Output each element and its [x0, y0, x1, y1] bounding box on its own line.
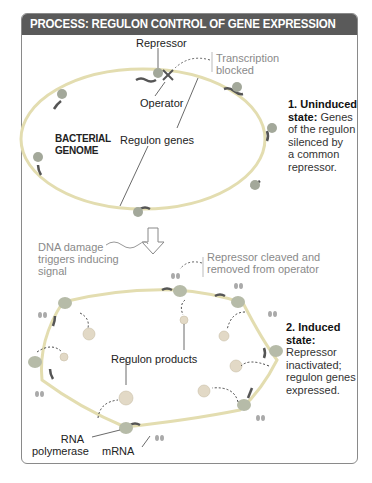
repressor-cleaved-label: Repressor cleaved and removed from opera… [207, 251, 320, 275]
induction-arrow-icon [142, 228, 164, 254]
induced-text-3: regulon genes [286, 371, 356, 384]
repressor-label: Repressor [136, 37, 187, 49]
uninduced-text-5: repressor. [288, 161, 357, 174]
uninduced-state-description: 1. Uninduced state: Genes of the regulon… [288, 98, 357, 173]
rna-polymerase-label: RNA polymerase [32, 433, 84, 457]
signal-line2: triggers inducing [38, 253, 119, 265]
signal-label: DNA damage triggers inducing signal [38, 241, 119, 277]
induced-text-2: inactivated; [286, 359, 356, 372]
signal-line1: DNA damage [38, 241, 119, 253]
induced-state-title: 2. Induced [286, 321, 340, 333]
regulon-products-label: Regulon products [111, 353, 197, 365]
induced-text-4: expressed. [286, 384, 356, 397]
uninduced-text-4: a common [288, 148, 357, 161]
cleaved-line2: removed from operator [207, 263, 320, 275]
leader-lines-induced [92, 324, 184, 447]
cleaved-arrow [180, 262, 202, 269]
transcription-blocked-label: Transcription blocked [216, 52, 279, 76]
regulon-genes-label: Regulon genes [120, 134, 194, 146]
genome-label-line2: GENOME [55, 145, 111, 157]
uninduced-text-1: Genes [320, 111, 352, 123]
uninduced-text-3: silenced by [288, 136, 357, 149]
cleaved-line1: Repressor cleaved and [207, 251, 320, 263]
rna-line1: RNA [32, 433, 84, 445]
operator-label: Operator [140, 97, 183, 109]
induced-state-description: 2. Induced state: Repressor inactivated;… [286, 321, 356, 396]
transcription-blocked-line2: blocked [216, 64, 279, 76]
induced-state-title2: state: [286, 334, 315, 346]
genome-label-line1: BACTERIAL [55, 133, 111, 145]
uninduced-state-title: 1. Uninduced [288, 98, 357, 110]
rna-line2: polymerase [32, 445, 84, 457]
transcription-blocked-line1: Transcription [216, 52, 279, 64]
bacterial-genome-label: BACTERIAL GENOME [55, 133, 111, 157]
uninduced-text-2: of the regulon [288, 123, 357, 136]
uninduced-state-title2: state: [288, 111, 317, 123]
induced-text-1: Repressor [286, 346, 356, 359]
signal-line3: signal [38, 265, 119, 277]
mrna-label: mRNA [102, 445, 134, 457]
blocked-arrow [175, 58, 210, 68]
